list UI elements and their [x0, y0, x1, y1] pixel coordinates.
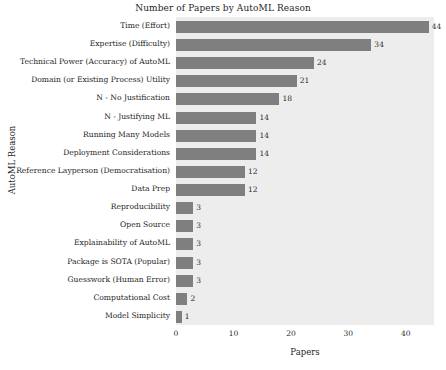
bar-row: 44	[176, 17, 434, 35]
bar-value-label: 3	[196, 257, 201, 269]
bar	[176, 57, 314, 69]
bar-row: 2	[176, 289, 434, 307]
bar-row: 34	[176, 35, 434, 53]
bar-value-label: 24	[317, 57, 327, 69]
category-label: Explainability of AutoML	[74, 234, 170, 252]
bar-row: 3	[176, 271, 434, 289]
chart-figure: Number of Papers by AutoML Reason 443424…	[0, 0, 446, 370]
category-label: Reference Layperson (Democratisation)	[16, 162, 170, 180]
bar-row: 12	[176, 180, 434, 198]
bar	[176, 93, 279, 105]
bar	[176, 21, 429, 33]
bar-row: 14	[176, 144, 434, 162]
bar-value-label: 44	[432, 21, 442, 33]
bar-value-label: 18	[282, 93, 292, 105]
bar-row: 3	[176, 198, 434, 216]
bar-value-label: 3	[196, 220, 201, 232]
bar-row: 14	[176, 126, 434, 144]
bar	[176, 293, 187, 305]
bar	[176, 148, 256, 160]
bar-row: 3	[176, 253, 434, 271]
bar-value-label: 14	[259, 112, 269, 124]
x-tick-label: 30	[333, 329, 363, 338]
bar-row: 3	[176, 234, 434, 252]
bar-value-label: 12	[248, 166, 258, 178]
category-label: Expertise (Difficulty)	[90, 35, 170, 53]
bar-value-label: 3	[196, 275, 201, 287]
x-tick-label: 10	[218, 329, 248, 338]
x-tick-label: 40	[391, 329, 421, 338]
bar-value-label: 14	[259, 130, 269, 142]
bar	[176, 257, 193, 269]
category-label: Data Prep	[131, 180, 170, 198]
bar-value-label: 14	[259, 148, 269, 160]
category-label: Reproducibility	[111, 198, 170, 216]
bar	[176, 275, 193, 287]
bar	[176, 220, 193, 232]
category-label: Running Many Models	[83, 126, 170, 144]
x-tick-label: 20	[276, 329, 306, 338]
bar-row: 12	[176, 162, 434, 180]
bar	[176, 130, 256, 142]
bar-row: 14	[176, 108, 434, 126]
category-label: N - Justifying ML	[104, 108, 170, 126]
bar-value-label: 21	[300, 75, 310, 87]
bar	[176, 75, 297, 87]
bar-value-label: 1	[185, 311, 190, 323]
bar-value-label: 2	[190, 293, 195, 305]
bar	[176, 202, 193, 214]
bar	[176, 166, 245, 178]
category-label: Open Source	[120, 216, 170, 234]
category-label: Package is SOTA (Popular)	[67, 253, 170, 271]
bar-value-label: 3	[196, 202, 201, 214]
category-label: Model Simplicity	[105, 307, 170, 325]
category-label: Time (Effort)	[120, 17, 170, 35]
category-label: Computational Cost	[93, 289, 170, 307]
bar-value-label: 12	[248, 184, 258, 196]
bar-value-label: 3	[196, 238, 201, 250]
bar	[176, 39, 371, 51]
bar	[176, 238, 193, 250]
x-tick-label: 0	[161, 329, 191, 338]
chart-title: Number of Papers by AutoML Reason	[0, 3, 446, 13]
bar	[176, 311, 182, 323]
category-label: Guesswork (Human Error)	[68, 271, 170, 289]
category-label: N - No Justification	[96, 89, 170, 107]
bar	[176, 184, 245, 196]
bar-row: 1	[176, 307, 434, 325]
bar-row: 3	[176, 216, 434, 234]
category-label: Technical Power (Accuracy) of AutoML	[20, 53, 170, 71]
bar-value-label: 34	[374, 39, 384, 51]
category-label: Domain (or Existing Process) Utility	[31, 71, 170, 89]
bar-row: 18	[176, 89, 434, 107]
bar-row: 24	[176, 53, 434, 71]
bar-row: 21	[176, 71, 434, 89]
x-axis-title: Papers	[176, 347, 434, 357]
bar	[176, 112, 256, 124]
category-label: Deployment Considerations	[63, 144, 170, 162]
y-axis-title: AutoML Reason	[7, 100, 17, 220]
